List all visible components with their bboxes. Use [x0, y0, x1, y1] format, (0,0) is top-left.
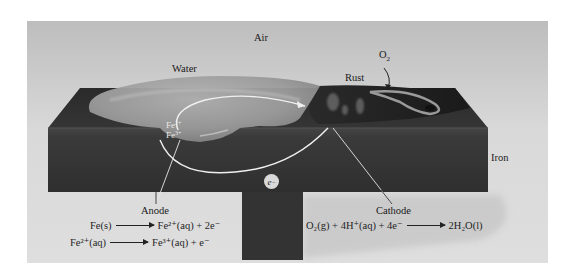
oxygen-label: O2: [379, 50, 390, 63]
anode-equation-2: Fe²⁺(aq)Fe³⁺(aq) + e⁻: [70, 238, 210, 249]
rust-label: Rust: [345, 73, 364, 84]
cathode-label: Cathode: [376, 206, 411, 217]
anode-equation-1: Fe(s)Fe²⁺(aq) + 2e⁻: [90, 221, 220, 232]
anode-label: Anode: [141, 206, 169, 217]
water-label: Water: [172, 64, 197, 75]
reaction-arrow-icon: [110, 242, 148, 243]
iron-label: Iron: [491, 153, 509, 164]
reaction-arrow-icon: [407, 225, 445, 226]
cathode-equation: O₂(g) + 4H⁺(aq) + 4e⁻2H₂O(l): [306, 221, 483, 232]
air-label: Air: [254, 33, 268, 44]
electron-badge: e−: [264, 174, 279, 189]
corrosion-diagram: Air Water Rust O2 Iron Anode Cathode Fe2…: [0, 0, 576, 280]
fe3-ion-label: Fe3+: [166, 131, 181, 140]
iron-pedestal: [242, 192, 303, 260]
reaction-arrow-icon: [116, 225, 154, 226]
fe2-ion-label: Fe2+: [166, 121, 181, 130]
